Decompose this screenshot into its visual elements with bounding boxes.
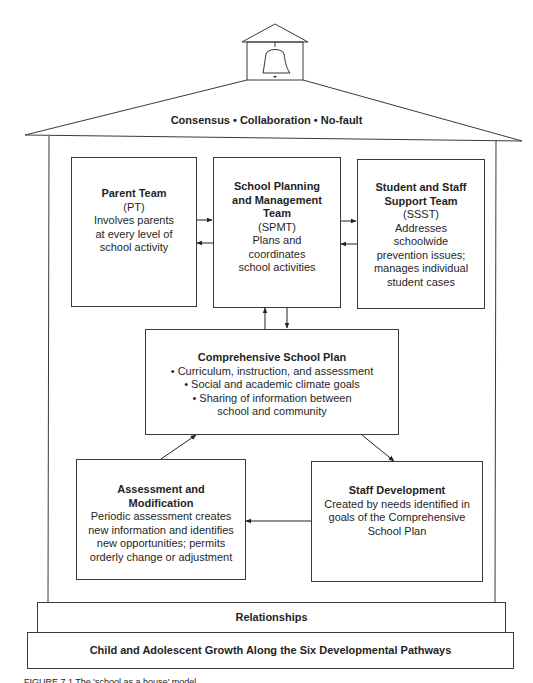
assessment-desc-line: Periodic assessment creates bbox=[77, 510, 245, 524]
parent-team-desc-line: at every level of bbox=[72, 228, 196, 242]
bell-icon bbox=[263, 42, 290, 78]
csp-bullet-item: • Curriculum, instruction, and assessmen… bbox=[146, 365, 398, 379]
spmt-title-line: Team bbox=[214, 207, 340, 221]
ssst-box: Student and Staff Support Team (SSST) Ad… bbox=[357, 159, 485, 309]
parent-team-desc-line: Involves parents bbox=[72, 214, 196, 228]
spmt-desc-line: coordinates bbox=[214, 248, 340, 262]
assessment-desc-line: orderly change or adjustment bbox=[77, 551, 245, 565]
spmt-abbr: (SPMT) bbox=[214, 221, 340, 235]
csp-title: Comprehensive School Plan bbox=[146, 351, 398, 365]
arrow-csp-to-staff-development bbox=[362, 435, 394, 461]
parent-team-title: Parent Team bbox=[72, 187, 196, 201]
parent-team-box: Parent Team (PT) Involves parents at eve… bbox=[71, 157, 197, 307]
arrow-assessment-to-csp bbox=[161, 435, 196, 459]
spmt-title-line: School Planning bbox=[214, 180, 340, 194]
ssst-desc-line: schoolwide bbox=[358, 235, 484, 249]
bell-tower bbox=[242, 24, 308, 80]
staff-development-desc-line: goals of the Comprehensive bbox=[312, 511, 482, 525]
ssst-title-line: Support Team bbox=[358, 195, 484, 209]
developmental-pathways-label: Child and Adolescent Growth Along the Si… bbox=[90, 644, 452, 656]
assessment-title-line: Assessment and bbox=[77, 483, 245, 497]
developmental-pathways-band: Child and Adolescent Growth Along the Si… bbox=[27, 632, 514, 669]
staff-development-desc-line: Created by needs identified in bbox=[312, 498, 482, 512]
ssst-desc-line: student cases bbox=[358, 276, 484, 290]
ssst-desc-line: prevention issues; bbox=[358, 249, 484, 263]
assessment-desc-line: new information and identifies bbox=[77, 524, 245, 538]
parent-team-desc-line: school activity bbox=[72, 241, 196, 255]
staff-development-box: Staff Development Created by needs ident… bbox=[311, 461, 483, 582]
assessment-desc-line: new opportunities; permits bbox=[77, 537, 245, 551]
staff-development-title: Staff Development bbox=[312, 484, 482, 498]
figure-caption: FIGURE 7.1 The 'school as a house' model bbox=[24, 677, 196, 683]
assessment-modification-box: Assessment and Modification Periodic ass… bbox=[76, 459, 246, 580]
ssst-abbr: (SSST) bbox=[358, 208, 484, 222]
roof bbox=[25, 80, 522, 141]
spmt-desc-line: Plans and bbox=[214, 234, 340, 248]
parent-team-abbr: (PT) bbox=[72, 201, 196, 215]
relationships-band: Relationships bbox=[37, 602, 506, 633]
csp-bullet-item: • Social and academic climate goals bbox=[146, 378, 398, 392]
staff-development-desc-line: School Plan bbox=[312, 525, 482, 539]
spmt-box: School Planning and Management Team (SPM… bbox=[213, 157, 341, 308]
ssst-title-line: Student and Staff bbox=[358, 181, 484, 195]
comprehensive-school-plan-box: Comprehensive School Plan • Curriculum, … bbox=[145, 329, 399, 435]
assessment-title-line: Modification bbox=[77, 497, 245, 511]
relationships-label: Relationships bbox=[235, 611, 307, 623]
roof-values-label: Consensus • Collaboration • No-fault bbox=[0, 114, 533, 126]
csp-bullet-item: • Sharing of information between bbox=[146, 392, 398, 406]
spmt-desc-line: school activities bbox=[214, 261, 340, 275]
spmt-title-line: and Management bbox=[214, 194, 340, 208]
csp-bullet-item-cont: school and community bbox=[146, 405, 398, 419]
ssst-desc-line: manages individual bbox=[358, 262, 484, 276]
ssst-desc-line: Addresses bbox=[358, 222, 484, 236]
